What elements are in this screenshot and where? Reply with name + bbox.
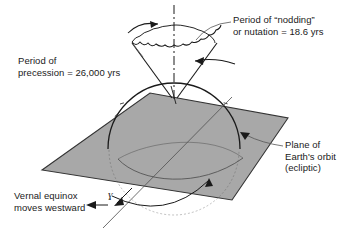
label-ecliptic-line3: (ecliptic) <box>285 162 336 174</box>
label-ecliptic-plane: Plane of Earth's orbit (ecliptic) <box>285 139 336 174</box>
aries-symbol: ɣ <box>108 189 113 200</box>
vernal-label-arrow-head <box>86 201 96 209</box>
label-nutation-line2: or nutation = 18.6 yrs <box>233 26 324 38</box>
label-vernal-line2: moves westward <box>14 202 85 214</box>
label-vernal-line1: Vernal equinox <box>14 190 85 202</box>
ecliptic-plane-surface <box>42 93 288 200</box>
leader-precession <box>133 44 143 57</box>
westward-arrow-head <box>114 197 124 206</box>
label-precession: Period of precession = 26,000 yrs <box>18 55 120 78</box>
precession-arrow-right-head <box>195 57 204 65</box>
precession-arrows <box>128 21 235 65</box>
precession-arrow-left-head <box>150 21 158 28</box>
ecliptic-plane <box>42 93 288 200</box>
label-vernal-equinox: Vernal equinox moves westward <box>14 190 85 213</box>
label-precession-line2: precession = 26,000 yrs <box>18 67 120 79</box>
label-nutation: Period of “nodding” or nutation = 18.6 y… <box>233 14 324 37</box>
nutation-rim-front <box>132 25 221 47</box>
label-ecliptic-line1: Plane of <box>285 139 336 151</box>
label-precession-line1: Period of <box>18 55 120 67</box>
label-ecliptic-line2: Earth's orbit <box>285 151 336 163</box>
label-nutation-line1: Period of “nodding” <box>233 14 324 26</box>
precession-diagram: Period of “nodding” or nutation = 18.6 y… <box>0 0 363 237</box>
